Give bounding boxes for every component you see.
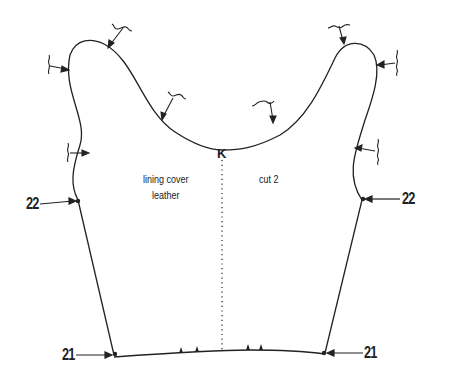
cut-count-label: cut 2 [259,174,279,185]
point-label-22-right: 22 [402,189,415,209]
notch-mark [195,346,199,352]
center-mark-label: K [217,146,226,161]
notch-mark [179,347,183,353]
right-side-seam [325,200,362,353]
point-dot-21-left [113,352,117,356]
notch-mark [246,344,250,350]
material-label-line1: lining cover [143,174,189,185]
hem-line [114,350,325,357]
pattern-piece-drawing [0,0,457,378]
pattern-outline [68,40,377,200]
left-side-seam [78,200,114,355]
material-label-line2: leather [152,190,180,201]
point-label-21-left: 21 [62,345,75,365]
point-label-21-right: 21 [364,343,377,363]
point-label-22-left: 22 [26,194,39,214]
notch-mark [259,344,263,350]
